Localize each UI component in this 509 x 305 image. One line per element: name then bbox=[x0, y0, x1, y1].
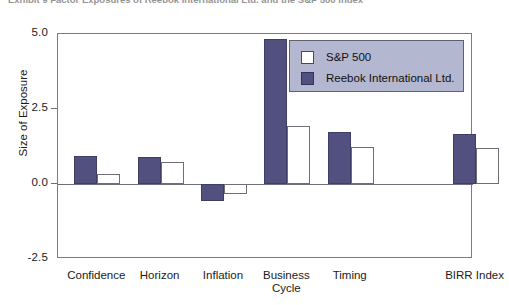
legend-item-reebok: Reebok International Ltd. bbox=[301, 69, 455, 87]
bar-group bbox=[74, 34, 120, 259]
bar-reebok bbox=[264, 39, 287, 185]
y-axis-tick-label: 0.0 bbox=[6, 176, 48, 188]
x-axis-tick-label: Timing bbox=[304, 269, 396, 282]
bar-sp500 bbox=[161, 162, 184, 185]
bar-reebok bbox=[138, 157, 161, 184]
legend-label-reebok: Reebok International Ltd. bbox=[326, 72, 455, 84]
y-axis-title: Size of Exposure bbox=[17, 38, 29, 188]
bar-sp500 bbox=[351, 147, 374, 185]
bar-sp500 bbox=[97, 174, 120, 184]
y-axis-tick-label: -2.5 bbox=[6, 251, 48, 263]
bar-reebok bbox=[453, 134, 476, 184]
x-axis-tick-label: BIRR Index bbox=[429, 269, 509, 282]
y-axis-tick-label: 5.0 bbox=[6, 26, 48, 38]
legend-swatch-sp500-icon bbox=[301, 51, 314, 64]
chart-legend: S&P 500 Reebok International Ltd. bbox=[289, 40, 464, 92]
bar-reebok bbox=[328, 132, 351, 184]
bar-group bbox=[138, 34, 184, 259]
legend-label-sp500: S&P 500 bbox=[326, 51, 371, 63]
bar-sp500 bbox=[476, 148, 499, 184]
bar-reebok bbox=[201, 184, 224, 201]
y-axis-tick-label: 2.5 bbox=[6, 101, 48, 113]
legend-item-sp500: S&P 500 bbox=[301, 48, 371, 66]
bar-reebok bbox=[74, 156, 97, 184]
bar-group bbox=[201, 34, 247, 259]
bar-sp500 bbox=[287, 126, 310, 184]
bar-sp500 bbox=[224, 184, 247, 194]
legend-swatch-reebok-icon bbox=[301, 72, 314, 85]
